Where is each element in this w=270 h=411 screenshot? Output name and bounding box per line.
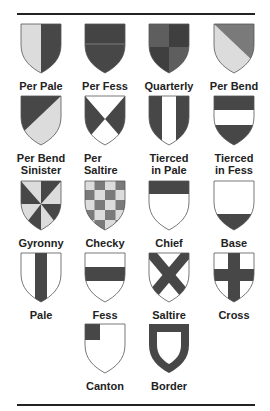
shield-label: Cross: [204, 309, 264, 321]
shield-label: Tiercedin Pale: [139, 152, 199, 176]
per-pale-shield-icon: [20, 23, 62, 74]
shield-label: Fess: [75, 309, 135, 321]
shield-label: Checky: [75, 237, 135, 249]
shield-fess: Fess: [75, 252, 135, 321]
shield-label: PerSaltire: [75, 152, 135, 176]
saltire-shield-icon: [148, 252, 190, 303]
shield-checky: Checky: [75, 180, 135, 249]
shield-saltire: Saltire: [139, 252, 199, 321]
shield-label: Gyronny: [11, 237, 71, 249]
shield-label: Per Fess: [75, 80, 135, 92]
per-saltire-shield-icon: [84, 95, 126, 146]
base-shield-icon: [213, 180, 255, 231]
per-bend-sinister-shield-icon: [20, 95, 62, 146]
shield-label: Quarterly: [139, 80, 199, 92]
tierced-in-fess-shield-icon: [213, 95, 255, 146]
gyronny-shield-icon: [20, 180, 62, 231]
shield-canton: Canton: [75, 323, 135, 392]
shield-label: Base: [204, 237, 264, 249]
tierced-in-pale-shield-icon: [148, 95, 190, 146]
shield-label: Per BendSinister: [11, 152, 71, 176]
cross-shield-icon: [213, 252, 255, 303]
top-rule: [17, 13, 255, 15]
shield-tierced-in-fess: Tiercedin Fess: [204, 95, 264, 176]
shield-per-fess: Per Fess: [75, 23, 135, 92]
shield-label: Border: [139, 380, 199, 392]
shield-pale: Pale: [11, 252, 71, 321]
shield-label: Per Bend: [204, 80, 264, 92]
quarterly-shield-icon: [148, 23, 190, 74]
canton-shield-icon: [84, 323, 126, 374]
shield-gyronny: Gyronny: [11, 180, 71, 249]
shield-cross: Cross: [204, 252, 264, 321]
shield-border: Border: [139, 323, 199, 392]
bottom-rule: [17, 404, 255, 406]
pale-shield-icon: [20, 252, 62, 303]
shield-per-saltire: PerSaltire: [75, 95, 135, 176]
per-bend-shield-icon: [213, 23, 255, 74]
shield-label: Canton: [75, 380, 135, 392]
shield-label: Pale: [11, 309, 71, 321]
per-fess-shield-icon: [84, 23, 126, 74]
fess-shield-icon: [84, 252, 126, 303]
shield-quarterly: Quarterly: [139, 23, 199, 92]
border-shield-icon: [148, 323, 190, 374]
shield-label: Chief: [139, 237, 199, 249]
shield-per-pale: Per Pale: [11, 23, 71, 92]
shield-base: Base: [204, 180, 264, 249]
shield-per-bend-sinister: Per BendSinister: [11, 95, 71, 176]
shield-label: Tiercedin Fess: [204, 152, 264, 176]
shield-label: Per Pale: [11, 80, 71, 92]
shield-chief: Chief: [139, 180, 199, 249]
shield-label: Saltire: [139, 309, 199, 321]
chief-shield-icon: [148, 180, 190, 231]
shield-per-bend: Per Bend: [204, 23, 264, 92]
checky-shield-icon: [84, 180, 126, 231]
shield-tierced-in-pale: Tiercedin Pale: [139, 95, 199, 176]
